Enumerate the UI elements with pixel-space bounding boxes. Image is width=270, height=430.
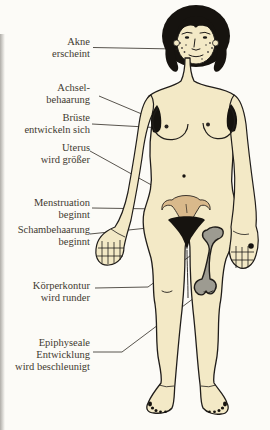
label-akne: Akne erscheint xyxy=(0,36,90,60)
right-ear xyxy=(213,40,219,46)
navel xyxy=(182,174,185,177)
label-menstruation: Menstruation beginnt xyxy=(0,197,90,221)
label-epiphyseale-entwicklung: Epiphyseale Entwicklung wird beschleunig… xyxy=(0,337,90,372)
label-schambehaarung: Schambehaarung beginnt xyxy=(0,224,90,248)
left-eye xyxy=(185,36,189,39)
label-uterus: Uterus wird größer xyxy=(0,142,90,166)
right-thumb-mark xyxy=(248,243,254,249)
label-brueste: Brüste entwickeln sich xyxy=(0,112,90,136)
pointer-akne xyxy=(93,48,176,50)
label-koerperkontur: Körperkontur wird runder xyxy=(0,280,90,304)
left-ear xyxy=(174,40,180,46)
puberty-diagram: Akne erscheint Achsel- behaarung Brüste … xyxy=(0,0,270,430)
right-eye xyxy=(203,36,207,39)
left-arm xyxy=(96,95,154,265)
label-achselbehaarung: Achsel- behaarung xyxy=(0,82,90,106)
